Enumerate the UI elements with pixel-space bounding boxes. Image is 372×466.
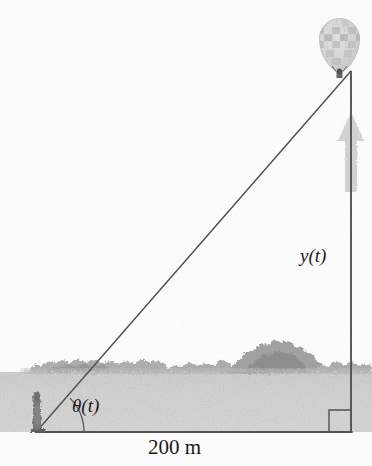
page-grain: [0, 0, 372, 466]
height-label: y(t): [300, 246, 326, 265]
angle-label: θ(t): [72, 396, 99, 415]
base-distance-label: 200 m: [148, 437, 201, 458]
balloon-related-rates-figure: θ(t) y(t) 200 m: [0, 0, 372, 466]
figure-canvas: [0, 0, 372, 466]
